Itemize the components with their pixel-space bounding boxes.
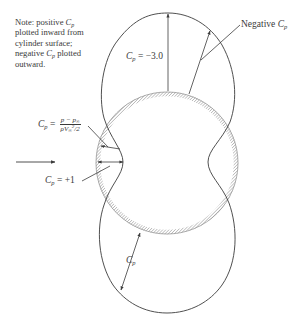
negative-cp-arrow bbox=[189, 31, 210, 94]
numerator-subscript: ∞ bbox=[76, 119, 80, 124]
negative-cp-label: Negative Cp bbox=[241, 19, 287, 29]
numerator-text: p − p bbox=[61, 116, 76, 124]
cp-fraction: p − p∞ρV∞2/2 bbox=[60, 116, 81, 133]
top-cp-value: = −3.0 bbox=[136, 51, 163, 61]
denominator-tail: /2 bbox=[74, 125, 79, 133]
note-line5: outward. bbox=[15, 59, 45, 69]
note-line4: negative bbox=[15, 48, 46, 58]
fraction-denominator: ρV∞2/2 bbox=[60, 125, 81, 133]
negative-cp-leader bbox=[201, 25, 240, 60]
note-line4-suffix: plotted bbox=[55, 48, 81, 58]
stagnation-cp-value: = +1 bbox=[55, 175, 75, 185]
note-line3: cylinder surface; bbox=[15, 38, 73, 48]
cylinder bbox=[96, 92, 238, 234]
cp-distribution-curve bbox=[99, 13, 235, 313]
cp-subscript: p bbox=[132, 259, 135, 266]
fraction-numerator: p − p∞ bbox=[60, 116, 81, 125]
note-line2: plotted inward from bbox=[15, 27, 84, 37]
denominator-text: ρV bbox=[61, 125, 69, 133]
note-text: Note: positive Cp plotted inward from cy… bbox=[15, 17, 105, 69]
negative-cp-text: Negative bbox=[241, 19, 278, 29]
cp-subscript: p bbox=[284, 23, 287, 30]
cylinder-hatch-ring bbox=[98, 94, 236, 232]
stagnation-cp-label: Cp = +1 bbox=[45, 175, 75, 185]
bottom-cp-label: Cp bbox=[126, 255, 136, 265]
note-line1: Note: positive bbox=[15, 17, 66, 27]
cp-definition-label: Cp = p − p∞ρV∞2/2 bbox=[38, 116, 81, 133]
equals-sign: = bbox=[48, 119, 58, 129]
top-cp-label: Cp = −3.0 bbox=[126, 51, 163, 61]
